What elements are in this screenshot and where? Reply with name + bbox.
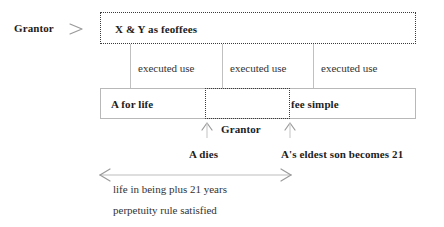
feoffees-box-label: X & Y as feoffees bbox=[115, 23, 197, 35]
event-label-eldest-son-21: A's eldest son becomes 21 bbox=[281, 148, 403, 160]
span-caption-life-in-being: life in being plus 21 years bbox=[113, 183, 227, 195]
grantor-reverter-segment bbox=[205, 88, 290, 119]
estate-label-fee-simple: fee simple bbox=[291, 98, 339, 110]
arrow-right-icon bbox=[68, 22, 94, 36]
connector-line-2 bbox=[222, 44, 223, 89]
arrow-up-icon-left bbox=[200, 121, 214, 139]
estate-label-a-for-life: A for life bbox=[111, 98, 153, 110]
executed-use-label-2: executed use bbox=[230, 62, 287, 74]
event-label-a-dies: A dies bbox=[189, 148, 218, 160]
span-caption-perpetuity-rule: perpetuity rule satisfied bbox=[113, 204, 217, 216]
feoffees-box: X & Y as feoffees bbox=[100, 12, 416, 44]
grantor-left-label: Grantor bbox=[14, 22, 54, 34]
executed-use-label-1: executed use bbox=[138, 62, 195, 74]
grantor-middle-label: Grantor bbox=[221, 123, 261, 135]
perpetuity-rule-diagram: Grantor X & Y as feoffees executed use e… bbox=[0, 0, 444, 227]
connector-line-1 bbox=[130, 44, 131, 89]
double-arrow-horizontal-icon bbox=[98, 168, 294, 182]
arrow-up-icon-right bbox=[283, 121, 297, 139]
executed-use-label-3: executed use bbox=[321, 62, 378, 74]
connector-line-3 bbox=[313, 44, 314, 89]
